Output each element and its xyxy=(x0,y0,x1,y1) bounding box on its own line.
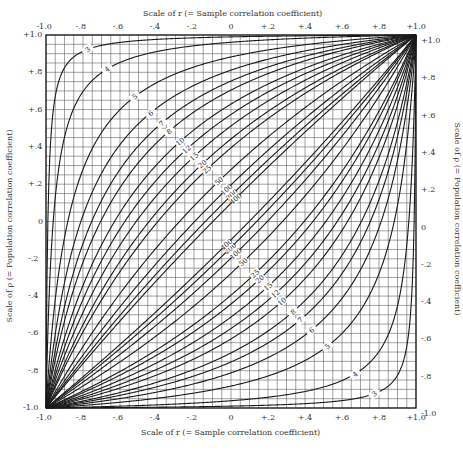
x-tick-top: -.4 xyxy=(150,22,160,31)
x-tick-bottom: +.8 xyxy=(372,413,386,422)
x-tick-bottom: +.4 xyxy=(298,413,312,422)
y-tick-left: +.2 xyxy=(28,179,42,188)
y-tick-right: -.4 xyxy=(421,297,431,306)
y-tick-right: +1.0 xyxy=(421,36,440,45)
y-tick-right: 0 xyxy=(421,223,426,232)
top-axis-title: Scale of r (= Sample correlation coeffic… xyxy=(143,9,322,18)
x-tick-bottom: -.2 xyxy=(187,413,197,422)
x-tick-top: +.4 xyxy=(298,22,312,31)
y-tick-right: -1.0 xyxy=(421,409,436,418)
x-tick-top: -.2 xyxy=(187,22,197,31)
x-tick-top: +.8 xyxy=(372,22,386,31)
x-tick-bottom: +.6 xyxy=(335,413,349,422)
x-tick-top: +.2 xyxy=(261,22,275,31)
y-tick-left: -.4 xyxy=(28,291,38,300)
x-tick-bottom: 0 xyxy=(229,413,234,422)
x-tick-bottom: -.8 xyxy=(76,413,86,422)
grid xyxy=(46,35,416,408)
y-tick-right: +.8 xyxy=(421,73,435,82)
confidence-belt-chart: 3344556677881010121215152020252550501001… xyxy=(0,0,463,451)
x-tick-top: -.8 xyxy=(76,22,86,31)
y-tick-right: +.6 xyxy=(421,111,435,120)
y-tick-left: -1.0 xyxy=(23,403,38,412)
left-axis-title: Scale of ρ (= Population correlation coe… xyxy=(5,123,14,323)
x-tick-bottom: -1.0 xyxy=(36,413,51,422)
bottom-axis-title: Scale of r (= Sample correlation coeffic… xyxy=(141,428,320,437)
y-tick-right: -.2 xyxy=(421,260,431,269)
y-tick-left: 0 xyxy=(38,217,43,226)
y-tick-left: +.4 xyxy=(28,142,42,151)
x-tick-top: +1.0 xyxy=(406,22,425,31)
y-tick-right: +.4 xyxy=(421,148,435,157)
x-tick-top: +.6 xyxy=(335,22,349,31)
y-tick-left: -.2 xyxy=(28,254,38,263)
y-tick-right: -.6 xyxy=(421,334,431,343)
y-tick-right: +.2 xyxy=(421,185,435,194)
y-tick-left: -.6 xyxy=(28,328,38,337)
x-tick-top: -.6 xyxy=(113,22,123,31)
right-axis-title: Scale of ρ (= Population correlation coe… xyxy=(453,123,462,323)
y-tick-left: +1.0 xyxy=(23,30,42,39)
y-tick-right: -.8 xyxy=(421,372,431,381)
x-tick-bottom: -.6 xyxy=(113,413,123,422)
x-tick-bottom: +.2 xyxy=(261,413,275,422)
y-tick-left: -.8 xyxy=(28,366,38,375)
x-tick-bottom: -.4 xyxy=(150,413,160,422)
x-tick-top: 0 xyxy=(229,22,234,31)
y-tick-left: +.6 xyxy=(28,105,42,114)
y-tick-left: +.8 xyxy=(28,67,42,76)
